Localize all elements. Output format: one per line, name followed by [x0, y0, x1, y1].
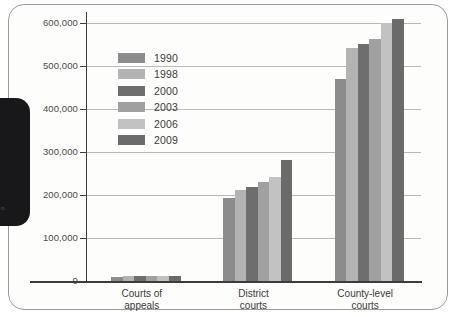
- legend-item: 2006: [118, 116, 178, 131]
- y-axis-tick: [80, 195, 87, 196]
- bar: [358, 44, 370, 281]
- bar: [246, 187, 258, 281]
- chart-legend: 199019982000200320062009: [118, 50, 178, 149]
- legend-item: 2003: [118, 100, 178, 115]
- bar: [381, 23, 393, 281]
- legend-label: 2000: [154, 85, 178, 97]
- bar: [157, 276, 169, 281]
- x-axis-line: [30, 281, 422, 283]
- chart-page: n. 0100,000200,000300,000400,000500,0006…: [0, 0, 456, 317]
- legend-label: 2009: [154, 134, 178, 146]
- bar: [392, 19, 404, 281]
- bar: [169, 276, 181, 281]
- legend-item: 1998: [118, 67, 178, 82]
- legend-item: 2009: [118, 133, 178, 148]
- bar-group: [223, 14, 292, 281]
- category-label: County-level courts: [309, 288, 421, 312]
- y-axis-tick: [80, 152, 87, 153]
- legend-swatch: [118, 102, 145, 112]
- bar: [146, 276, 158, 281]
- bar: [335, 79, 347, 281]
- legend-label: 1990: [154, 52, 178, 64]
- bar: [111, 277, 123, 281]
- bar: [223, 198, 235, 281]
- legend-swatch: [118, 135, 145, 145]
- y-axis-tick: [80, 109, 87, 110]
- bar-group: [335, 14, 404, 281]
- legend-item: 2000: [118, 83, 178, 98]
- bar: [369, 39, 381, 281]
- y-axis-tick: [80, 238, 87, 239]
- category-label: District courts: [198, 288, 310, 312]
- legend-swatch: [118, 86, 145, 96]
- y-axis-tick: [80, 66, 87, 67]
- bar: [134, 276, 146, 281]
- legend-label: 2006: [154, 118, 178, 130]
- bar: [235, 190, 247, 281]
- legend-label: 1998: [154, 68, 178, 80]
- legend-swatch: [118, 53, 145, 63]
- bar: [269, 177, 281, 281]
- bar: [258, 182, 270, 281]
- y-axis-tick-label: 600,000: [16, 17, 78, 28]
- bar: [346, 48, 358, 281]
- y-axis-tick-label: 100,000: [16, 232, 78, 243]
- bar: [281, 160, 293, 281]
- legend-label: 2003: [154, 101, 178, 113]
- marginal-note: n.: [1, 205, 6, 211]
- y-axis-tick: [80, 23, 87, 24]
- category-label: Courts of appeals: [86, 288, 198, 312]
- legend-item: 1990: [118, 50, 178, 65]
- y-axis-tick: [80, 281, 87, 282]
- legend-swatch: [118, 119, 145, 129]
- y-axis-tick-label: 500,000: [16, 60, 78, 71]
- bar: [123, 276, 135, 281]
- legend-swatch: [118, 69, 145, 79]
